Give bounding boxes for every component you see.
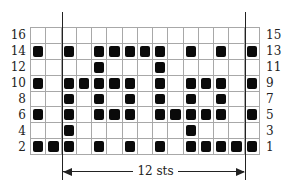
stitch-cell-empty <box>77 107 92 123</box>
stitch-cell-empty <box>168 76 183 92</box>
stitch-cell-filled <box>214 92 229 108</box>
stitch-cell-empty <box>107 92 122 108</box>
stitch-cell-empty <box>184 28 199 44</box>
stitch-cell-empty <box>199 123 214 139</box>
stitch-cell-empty <box>214 60 229 76</box>
stitch-cell-empty <box>138 92 153 108</box>
stitch-cell-filled <box>31 139 46 155</box>
stitch-cell-filled <box>62 76 77 92</box>
stitch-cell-empty <box>46 107 61 123</box>
stitch-cell-filled <box>214 44 229 60</box>
stitch-cell-filled <box>184 123 199 139</box>
row-number-label: 14 <box>4 43 26 59</box>
stitch-cell-empty <box>199 28 214 44</box>
stitch-cell-empty <box>46 92 61 108</box>
stitch-cell-filled <box>62 107 77 123</box>
row-number-label: 13 <box>266 43 290 59</box>
stitch-cell-filled <box>107 107 122 123</box>
stitch-cell-empty <box>46 76 61 92</box>
stitch-cell-empty <box>199 60 214 76</box>
stitch-cell-filled <box>153 107 168 123</box>
stitch-cell-filled <box>199 139 214 155</box>
row-number-label: 9 <box>266 75 290 91</box>
stitch-cell-filled <box>153 92 168 108</box>
row-labels-left: 161412108642 <box>4 27 26 155</box>
stitch-cell-empty <box>168 44 183 60</box>
arrow-right-icon <box>236 168 245 176</box>
stitch-cell-filled <box>153 60 168 76</box>
stitch-cell-empty <box>107 28 122 44</box>
stitch-cell-empty <box>46 28 61 44</box>
stitch-cell-filled <box>245 76 260 92</box>
stitch-cell-empty <box>107 139 122 155</box>
stitch-cell-empty <box>123 123 138 139</box>
stitch-cell-empty <box>199 92 214 108</box>
stitch-cell-filled <box>245 107 260 123</box>
row-number-label: 16 <box>4 27 26 43</box>
stitch-cell-filled <box>214 76 229 92</box>
stitch-cell-empty <box>77 28 92 44</box>
stitch-cell-empty <box>77 44 92 60</box>
stitch-cell-empty <box>77 60 92 76</box>
stitch-cell-empty <box>168 139 183 155</box>
stitch-cell-filled <box>245 139 260 155</box>
stitch-cell-empty <box>138 139 153 155</box>
stitch-cell-filled <box>107 76 122 92</box>
row-labels-right: 15131197531 <box>266 27 290 155</box>
stitch-cell-filled <box>31 76 46 92</box>
stitch-cell-filled <box>92 139 107 155</box>
stitch-cell-filled <box>46 139 61 155</box>
stitch-cell-filled <box>153 76 168 92</box>
stitch-cell-filled <box>184 76 199 92</box>
stitch-cell-empty <box>46 60 61 76</box>
stitch-cell-empty <box>138 76 153 92</box>
repeat-arrow-right <box>178 171 244 172</box>
stitch-cell-filled <box>31 107 46 123</box>
stitch-cell-empty <box>62 28 77 44</box>
stitch-cell-filled <box>77 76 92 92</box>
stitch-cell-filled <box>123 76 138 92</box>
stitch-cell-empty <box>46 123 61 139</box>
stitch-cell-filled <box>92 92 107 108</box>
stitch-cell-empty <box>229 123 244 139</box>
stitch-cell-filled <box>153 139 168 155</box>
repeat-label: 12 sts <box>133 163 178 179</box>
repeat-end-line <box>245 12 246 180</box>
stitch-cell-filled <box>92 44 107 60</box>
stitch-cell-empty <box>245 28 260 44</box>
stitch-cell-filled <box>229 139 244 155</box>
row-number-label: 5 <box>266 107 290 123</box>
stitch-cell-filled <box>184 139 199 155</box>
stitch-cell-filled <box>138 44 153 60</box>
stitch-cell-filled <box>184 92 199 108</box>
stitch-cell-empty <box>229 92 244 108</box>
stitch-cell-filled <box>123 44 138 60</box>
stitch-cell-empty <box>46 44 61 60</box>
stitch-cell-empty <box>92 28 107 44</box>
stitch-cell-empty <box>214 123 229 139</box>
stitch-cell-empty <box>245 60 260 76</box>
stitch-cell-empty <box>168 60 183 76</box>
row-number-label: 2 <box>4 139 26 155</box>
stitch-cell-empty <box>138 60 153 76</box>
stitch-cell-filled <box>245 44 260 60</box>
stitch-cell-empty <box>153 28 168 44</box>
stitch-cell-empty <box>138 123 153 139</box>
stitch-cell-filled <box>123 107 138 123</box>
stitch-cell-empty <box>77 139 92 155</box>
stitch-cell-filled <box>92 107 107 123</box>
stitch-cell-filled <box>92 60 107 76</box>
stitch-cell-empty <box>77 92 92 108</box>
stitch-cell-filled <box>62 139 77 155</box>
stitch-cell-empty <box>31 60 46 76</box>
stitch-cell-empty <box>107 60 122 76</box>
stitch-cell-empty <box>107 123 122 139</box>
row-number-label: 11 <box>266 59 290 75</box>
stitch-cell-empty <box>123 28 138 44</box>
stitch-cell-empty <box>229 60 244 76</box>
stitch-cell-empty <box>138 28 153 44</box>
stitch-cell-empty <box>229 107 244 123</box>
stitch-cell-empty <box>31 28 46 44</box>
stitch-cell-empty <box>245 92 260 108</box>
stitch-cell-empty <box>92 123 107 139</box>
